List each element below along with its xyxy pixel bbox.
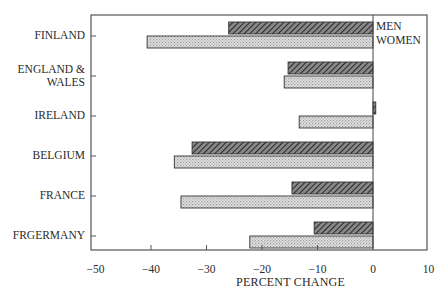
bar-women xyxy=(147,36,373,48)
bar-women xyxy=(174,156,373,168)
category-label: ENGLAND & WALES xyxy=(18,63,85,89)
x-axis-title: PERCENT CHANGE xyxy=(203,275,378,290)
bar-chart: FINLANDENGLAND & WALESIRELANDBELGIUMFRAN… xyxy=(0,0,441,299)
category-label: FINLAND xyxy=(35,29,85,42)
bars-group xyxy=(147,22,376,248)
x-tick-label: −10 xyxy=(298,263,338,275)
bar-men xyxy=(288,62,373,74)
bar-women xyxy=(181,196,373,208)
category-label: FRGERMANY xyxy=(13,229,85,242)
category-label: FRANCE xyxy=(40,189,85,202)
bar-men xyxy=(292,182,373,194)
bar-women xyxy=(299,116,373,128)
x-tick-label: −40 xyxy=(131,263,171,275)
x-tick-label: −30 xyxy=(187,263,227,275)
x-tick-label: 10 xyxy=(409,263,441,275)
bar-women xyxy=(284,76,373,88)
bar-men xyxy=(229,22,373,34)
category-label: IRELAND xyxy=(35,109,85,122)
category-label: BELGIUM xyxy=(33,149,85,162)
legend-women-label: WOMEN xyxy=(376,34,421,46)
legend-men-label: MEN xyxy=(376,20,402,32)
plot-frame xyxy=(91,15,427,250)
bar-women xyxy=(250,236,373,248)
bar-men xyxy=(314,222,373,234)
x-tick-label: −20 xyxy=(242,263,282,275)
x-tick-label: 0 xyxy=(353,263,393,275)
x-tick-label: −50 xyxy=(76,263,116,275)
bar-men xyxy=(192,142,373,154)
